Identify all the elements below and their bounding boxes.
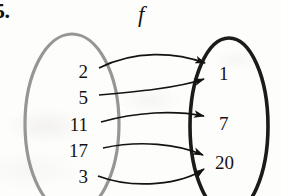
domain-element-17: 17 <box>58 141 88 160</box>
arrow-3-to-20 <box>98 169 204 184</box>
codomain-element-7: 7 <box>219 114 229 133</box>
codomain-element-1: 1 <box>219 64 229 83</box>
arrow-2-to-1 <box>99 55 205 68</box>
domain-element-5: 5 <box>58 88 88 107</box>
domain-element-2: 2 <box>58 62 88 81</box>
codomain-element-20: 20 <box>215 153 234 172</box>
mapping-diagram-figure: 5. f 2 5 11 17 3 1 7 20 <box>0 0 281 196</box>
diagram-canvas <box>0 0 281 196</box>
domain-element-3: 3 <box>58 167 88 186</box>
domain-element-11: 11 <box>58 115 88 134</box>
